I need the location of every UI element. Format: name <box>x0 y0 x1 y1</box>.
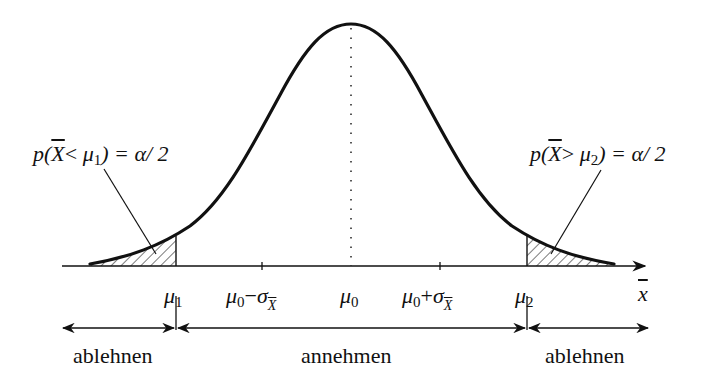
mu-subscript: 0 <box>351 294 359 310</box>
mu-symbol: μ <box>164 283 175 308</box>
sigma-symbol: σ <box>257 283 268 308</box>
mu-symbol: μ <box>580 141 591 166</box>
sigma-symbol: σ <box>433 283 444 308</box>
tick-mu0-plus-sigma: μ0+σX <box>402 285 452 313</box>
mu-subscript: 0 <box>237 294 245 310</box>
left-tail-annotation: p(X< μ1) = α/ 2 <box>33 143 169 168</box>
greater-than: > <box>562 141 580 166</box>
alpha-half: ) = α/ 2 <box>101 141 168 166</box>
tick-mu2: μ2 <box>515 285 534 310</box>
axis-label-x-bar: x <box>638 283 648 305</box>
right-tail-annotation: p(X> μ2) = α/ 2 <box>530 143 666 168</box>
prob-symbol: p( <box>530 141 548 166</box>
mu-symbol: μ <box>83 141 94 166</box>
alpha-half: ) = α/ 2 <box>598 141 665 166</box>
mu-symbol: μ <box>340 283 351 308</box>
sigma-subscript: X <box>444 298 453 313</box>
sigma-subscript: X <box>268 298 277 313</box>
mu-symbol: μ <box>402 283 413 308</box>
mu-symbol: μ <box>515 283 526 308</box>
plus-sign: + <box>421 283 433 308</box>
x-bar-symbol: X <box>51 141 64 166</box>
x-bar-symbol: X <box>548 141 561 166</box>
mu-symbol: μ <box>226 283 237 308</box>
region-label-reject-left: ablehnen <box>73 345 152 367</box>
mu-subscript: 0 <box>413 294 421 310</box>
normal-curve-graphic <box>0 0 725 386</box>
tick-mu0-minus-sigma: μ0−σX <box>226 285 276 313</box>
mu-subscript: 1 <box>175 294 183 310</box>
mu-subscript: 2 <box>526 294 534 310</box>
region-label-reject-right: ablehnen <box>545 345 624 367</box>
tick-mu1: μ1 <box>164 285 183 310</box>
minus-sign: − <box>245 283 257 308</box>
prob-symbol: p( <box>33 141 51 166</box>
tick-mu0: μ0 <box>340 285 359 310</box>
less-than: < <box>65 141 83 166</box>
region-label-accept: annehmen <box>301 345 391 367</box>
